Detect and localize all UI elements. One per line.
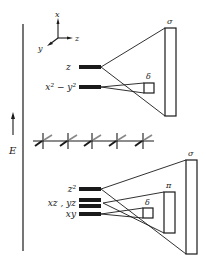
delta-band-box (144, 83, 154, 93)
sigma-band-box (165, 28, 176, 116)
orbital-label-x2-y2: x² − y² (45, 82, 76, 92)
delta-band-box (143, 208, 153, 218)
crystal-row (33, 133, 154, 149)
orbital-bar-z2 (79, 187, 101, 191)
orbital-overlap-diagram: E x z y σ δ z x² − y² (0, 0, 206, 269)
energy-arrow-icon (11, 112, 15, 135)
axis-y-label: y (37, 44, 43, 53)
energy-axis-label: E (8, 145, 17, 156)
sigma-label: σ (188, 149, 194, 158)
orbital-bar-yz (79, 204, 101, 208)
orbital-label-z: z (65, 62, 71, 72)
delta-label: δ (145, 198, 150, 207)
orbital-bar-xy (79, 212, 101, 216)
orbital-bar-xz (79, 198, 101, 202)
sigma-label: σ (167, 17, 173, 26)
top-panel: σ δ z x² − y² (45, 17, 176, 116)
pi-band-box (164, 192, 175, 233)
coordinate-axes-icon (47, 18, 73, 46)
orbital-label-xy: xy (66, 209, 77, 219)
sigma-band-box (186, 160, 197, 254)
axis-x-label: x (55, 10, 60, 19)
pi-label: π (165, 181, 172, 190)
delta-label: δ (146, 72, 151, 81)
orbital-label-z2: z² (67, 184, 77, 194)
axis-z-label: z (74, 34, 80, 43)
orbital-bar-z (79, 65, 101, 69)
bottom-panel: σ π δ z² xz , yz xy (48, 149, 197, 254)
orbital-label-xz-yz: xz , yz (48, 198, 76, 208)
orbital-bar-x2-y2 (79, 85, 101, 89)
